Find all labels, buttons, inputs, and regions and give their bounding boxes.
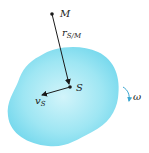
label-r-sm: rS/M <box>62 28 81 38</box>
point-s-icon <box>68 85 72 89</box>
diagram-canvas <box>0 0 149 153</box>
label-omega: ω <box>133 92 141 102</box>
label-s: S <box>76 83 83 93</box>
label-v-s: vS <box>35 96 45 106</box>
label-v-sub: S <box>41 100 46 108</box>
label-m: M <box>60 9 70 19</box>
label-r-sub: S/M <box>67 32 81 40</box>
omega-rotation-arrow-icon <box>123 87 129 101</box>
label-v-main: v <box>35 95 41 106</box>
point-m-icon <box>50 12 54 16</box>
